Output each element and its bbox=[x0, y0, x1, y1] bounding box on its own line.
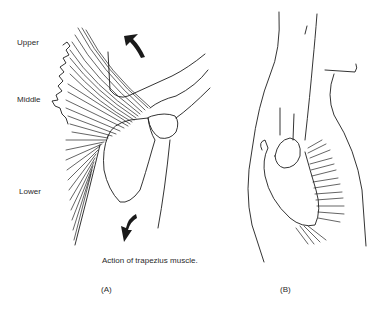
trapezius-lateral-edge bbox=[75, 145, 100, 245]
label-middle: Middle bbox=[17, 95, 41, 104]
panel-a-label: (A) bbox=[101, 285, 112, 294]
muscle-fibers-b bbox=[296, 140, 344, 244]
panel-b-label: (B) bbox=[280, 285, 291, 294]
arrow-up-icon bbox=[124, 34, 145, 58]
scapula bbox=[104, 118, 156, 202]
vertebral-column bbox=[52, 42, 70, 124]
figure-caption: Action of trapezius muscle. bbox=[102, 256, 198, 265]
thorax-line bbox=[158, 140, 170, 228]
humeral-head-b bbox=[275, 138, 300, 168]
shoulder-contour bbox=[108, 52, 205, 97]
arrow-down-icon bbox=[121, 214, 137, 242]
panel-b-drawing bbox=[248, 12, 366, 262]
label-upper: Upper bbox=[17, 38, 39, 47]
arm-right-contour bbox=[305, 14, 317, 140]
arm-contour-upper bbox=[150, 70, 208, 108]
scapula-b bbox=[261, 140, 319, 226]
arm-contour-lower bbox=[176, 88, 210, 118]
arm-left-contour bbox=[248, 12, 279, 262]
lower-fibers bbox=[66, 140, 106, 240]
torso-contour bbox=[325, 64, 366, 246]
arm-inner-line-2 bbox=[293, 114, 294, 140]
arm-crease bbox=[305, 26, 307, 34]
label-lower: Lower bbox=[19, 187, 41, 196]
panel-a-drawing bbox=[52, 28, 210, 245]
